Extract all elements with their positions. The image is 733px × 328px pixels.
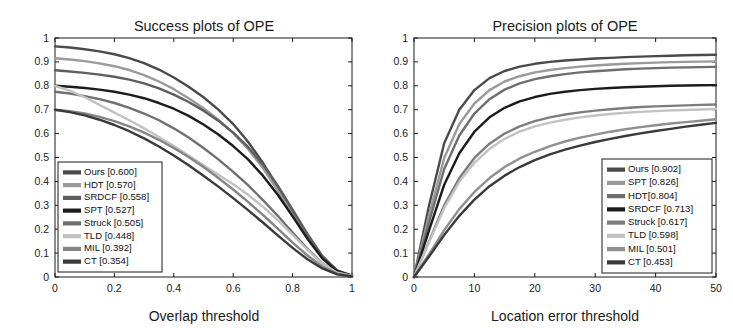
figure-container: Success plots of OPE 00.20.40.60.8100.10… — [0, 0, 733, 328]
legend-label-srdcf: SRDCF [0.558] — [84, 191, 149, 202]
precision-ytick: 0.8 — [393, 79, 408, 91]
precision-ytick: 0.3 — [393, 199, 408, 211]
success-xtick: 0.6 — [226, 282, 241, 294]
precision-xtick: 0 — [411, 282, 417, 294]
success-xaxis-label: Overlap threshold — [149, 308, 260, 324]
success-ytick: 0.1 — [34, 247, 49, 259]
precision-xtick: 10 — [469, 282, 481, 294]
success-ytick: 0.4 — [34, 175, 49, 187]
precision-ytick: 0.9 — [393, 55, 408, 67]
success-xtick: 0.4 — [166, 282, 181, 294]
success-ytick: 0.2 — [34, 223, 49, 235]
precision-plot-title: Precision plots of OPE — [492, 18, 637, 34]
success-xtick: 1 — [349, 282, 355, 294]
success-plot-title: Success plots of OPE — [134, 18, 275, 34]
legend-label-struck: Struck [0.617] — [628, 216, 687, 227]
precision-ytick: 0.7 — [393, 103, 408, 115]
legend-label-ours: Ours [0.600] — [84, 166, 137, 177]
precision-xaxis-label: Location error threshold — [491, 308, 639, 324]
success-ytick: 0.8 — [34, 79, 49, 91]
legend-label-ct: CT [0.354] — [84, 255, 129, 266]
success-plot-svg: Success plots of OPE 00.20.40.60.8100.10… — [0, 0, 366, 328]
precision-ytick: 0.4 — [393, 175, 408, 187]
success-ytick: 1 — [43, 32, 49, 44]
precision-plot-area: 0102030405000.10.20.30.40.50.60.70.80.91… — [393, 32, 722, 295]
panel-success: Success plots of OPE 00.20.40.60.8100.10… — [0, 0, 366, 328]
legend-label-mil: MIL [0.392] — [84, 242, 132, 253]
success-ytick: 0.9 — [34, 55, 49, 67]
success-ytick: 0.7 — [34, 103, 49, 115]
legend-label-tld: TLD [0.448] — [84, 230, 134, 241]
precision-xtick: 20 — [529, 282, 541, 294]
precision-ytick: 0.6 — [393, 127, 408, 139]
legend-label-tld: TLD [0.598] — [628, 229, 678, 240]
panel-precision: Precision plots of OPE 0102030405000.10.… — [366, 0, 732, 328]
precision-ytick: 0.2 — [393, 223, 408, 235]
legend-label-ours: Ours [0.902] — [628, 163, 681, 174]
success-ytick: 0.6 — [34, 127, 49, 139]
success-plot-area: 00.20.40.60.8100.10.20.30.40.50.60.70.80… — [34, 32, 355, 295]
success-ytick: 0 — [43, 271, 49, 283]
success-ytick: 0.5 — [34, 151, 49, 163]
precision-xtick: 40 — [650, 282, 662, 294]
legend-label-hdt: HDT [0.570] — [84, 179, 136, 190]
legend-label-srdcf: SRDCF [0.713] — [628, 203, 693, 214]
legend-label-spt: SPT [0.527] — [84, 204, 135, 215]
legend-label-ct: CT [0.453] — [628, 256, 673, 267]
precision-ytick: 1 — [402, 32, 408, 44]
precision-xtick: 50 — [710, 282, 722, 294]
precision-xtick: 30 — [589, 282, 601, 294]
legend-label-spt: SPT [0.826] — [628, 176, 679, 187]
precision-ytick: 0.1 — [393, 247, 408, 259]
legend-label-hdt: HDT[0.804] — [628, 190, 677, 201]
success-xtick: 0 — [52, 282, 58, 294]
legend-label-struck: Struck [0.505] — [84, 217, 143, 228]
precision-plot-svg: Precision plots of OPE 0102030405000.10.… — [366, 0, 732, 328]
success-ytick: 0.3 — [34, 199, 49, 211]
success-xtick: 0.8 — [285, 282, 300, 294]
precision-ytick: 0.5 — [393, 151, 408, 163]
success-xtick: 0.2 — [107, 282, 122, 294]
precision-ytick: 0 — [402, 271, 408, 283]
legend-label-mil: MIL [0.501] — [628, 243, 676, 254]
